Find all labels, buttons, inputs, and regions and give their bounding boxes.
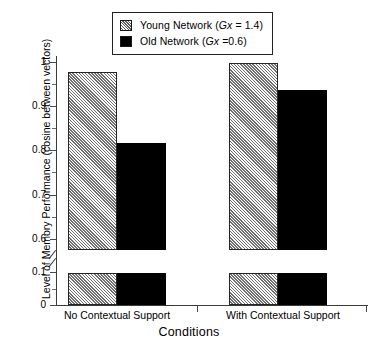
bar-old-no-contextual-support xyxy=(117,143,166,250)
x-axis-line xyxy=(56,305,368,306)
x-axis-title: Conditions xyxy=(0,325,378,339)
bar-old-with-contextual-support xyxy=(278,90,327,250)
legend-item-old-label: Old Network (Gx =0.6) xyxy=(140,36,247,47)
y-tick-minor-0.95 xyxy=(52,84,56,85)
x-label-no-contextual-support: No Contextual Support xyxy=(37,309,197,321)
y-tick-minor-0.85 xyxy=(52,128,56,129)
x-label-with-contextual-support: With Contextual Support xyxy=(196,309,370,321)
legend-item-young: Young Network (Gx = 1.4) xyxy=(120,17,263,33)
bar-old-no-contextual-support-stub xyxy=(117,273,166,305)
bar-young-no-contextual-support xyxy=(68,72,117,250)
y-tick-minor-0.75 xyxy=(52,172,56,173)
bar-young-with-contextual-support xyxy=(229,63,278,250)
legend-item-young-label: Young Network (Gx = 1.4) xyxy=(140,20,263,31)
young-hatch-swatch xyxy=(120,20,132,31)
chart-legend: Young Network (Gx = 1.4) Old Network (Gx… xyxy=(112,12,273,55)
y-tick-minor-0.05 xyxy=(52,289,56,290)
old-solid-swatch xyxy=(120,36,132,47)
bar-young-no-contextual-support-stub xyxy=(68,273,117,305)
y-axis-title: Level of Memory Performance (cosine betw… xyxy=(40,49,52,299)
bar-old-with-contextual-support-stub xyxy=(278,273,327,305)
bar-young-with-contextual-support-stub xyxy=(229,273,278,305)
y-tick-minor-0.65 xyxy=(52,217,56,218)
y-tick-0 xyxy=(50,305,56,306)
bar-chart-figure: Young Network (Gx = 1.4) Old Network (Gx… xyxy=(0,0,378,351)
y-axis-line xyxy=(56,56,57,306)
legend-item-old: Old Network (Gx =0.6) xyxy=(120,33,263,49)
